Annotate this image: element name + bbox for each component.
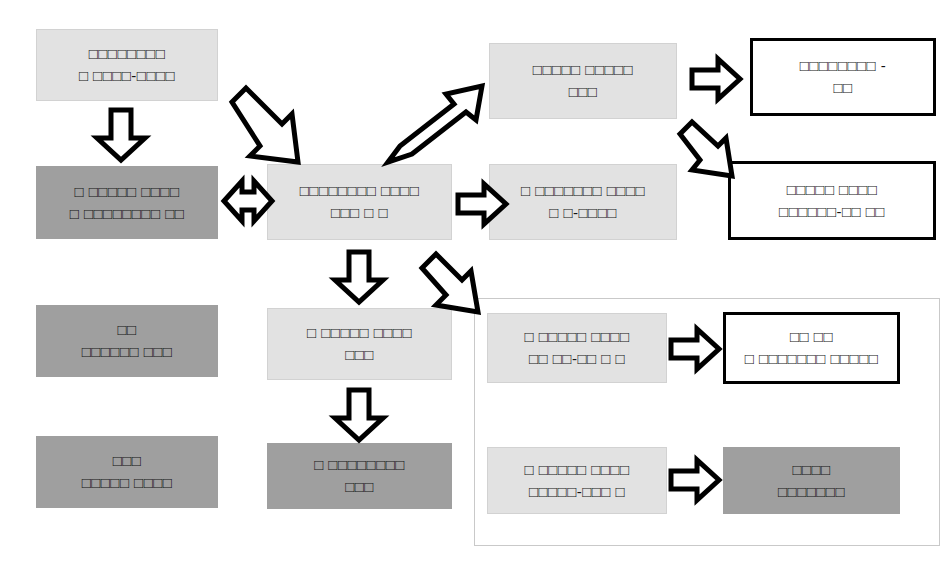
node-group-lower-target-line-1: □□□□: [792, 459, 830, 481]
node-lower-center-line-2: □□□: [345, 344, 374, 366]
node-bottom-center-dark[interactable]: □ □□□□□□□□ □□□: [267, 443, 452, 509]
node-lower-left-dark-line-1: □□: [117, 319, 136, 341]
node-group-lower-source-line-2: □□□□□-□□□ □: [529, 481, 625, 503]
node-bottom-center-dark-line-2: □□□: [345, 476, 374, 498]
node-mid-right-line-2: □ □-□□□□: [549, 202, 617, 224]
node-group-upper-source-line-2: □□ □□-□□ □ □: [529, 348, 625, 370]
node-top-left[interactable]: □□□□□□□□ □ □□□□-□□□□: [36, 29, 218, 101]
node-group-upper-target[interactable]: □□ □□ □ □□□□□□□ □□□□□: [723, 312, 900, 384]
node-group-upper-target-line-2: □ □□□□□□□ □□□□□: [745, 348, 879, 370]
node-top-mid-right-line-2: □□□: [569, 81, 598, 103]
node-top-left-line-1: □□□□□□□□: [89, 43, 165, 65]
node-top-left-line-2: □ □□□□-□□□□: [79, 65, 175, 87]
node-top-mid-right-line-1: □□□□□ □□□□□: [533, 59, 633, 81]
node-mid-right-outlined[interactable]: □□□□□ □□□□ □□□□□□-□□ □□: [728, 161, 936, 240]
node-group-lower-target-line-2: □□□□□□□: [778, 481, 845, 503]
node-lower-center[interactable]: □ □□□□□ □□□□ □□□: [267, 308, 452, 380]
node-group-lower-source-line-1: □ □□□□□ □□□□: [525, 459, 630, 481]
node-center-line-2: □□□ □ □: [331, 202, 388, 224]
node-top-right-outlined-line-2: □□: [833, 77, 852, 99]
node-lower-left-dark[interactable]: □□ □□□□□□ □□□: [36, 305, 218, 377]
node-top-mid-right[interactable]: □□□□□ □□□□□ □□□: [489, 43, 677, 119]
arrow-diagonal-topleft-to-center: [228, 96, 310, 172]
node-mid-right-line-1: □ □□□□□□□ □□□□: [521, 180, 645, 202]
node-mid-right[interactable]: □ □□□□□□□ □□□□ □ □-□□□□: [489, 164, 677, 240]
arrow-right-topmidright-to-outlined: [690, 57, 742, 101]
arrow-down-lowercenter-to-bottomcenter: [333, 388, 385, 442]
arrow-down-center-to-lowercenter: [333, 250, 385, 304]
node-bottom-left-dark[interactable]: □□□ □□□□□ □□□□: [36, 436, 218, 508]
node-bottom-center-dark-line-1: □ □□□□□□□□: [314, 454, 405, 476]
node-top-right-outlined[interactable]: □□□□□□□□ - □□: [750, 38, 936, 116]
arrow-down-topleft-to-midleft: [95, 108, 147, 162]
node-center[interactable]: □□□□□□□□ □□□□ □□□ □ □: [267, 164, 452, 240]
node-group-upper-source-line-1: □ □□□□□ □□□□: [525, 326, 630, 348]
diagram-canvas: □□□□□□□□ □ □□□□-□□□□ □ □□□□□ □□□□ □ □□□□…: [0, 0, 947, 580]
node-bottom-left-dark-line-2: □□□□□ □□□□: [82, 472, 173, 494]
node-mid-left-dark[interactable]: □ □□□□□ □□□□ □ □□□□□□□□ □□: [36, 166, 218, 239]
node-lower-left-dark-line-2: □□□□□□ □□□: [82, 341, 173, 363]
node-mid-right-outlined-line-1: □□□□□ □□□□: [787, 179, 878, 201]
node-group-upper-source[interactable]: □ □□□□□ □□□□ □□ □□-□□ □ □: [487, 313, 667, 383]
node-center-line-1: □□□□□□□□ □□□□: [300, 180, 419, 202]
node-group-lower-source[interactable]: □ □□□□□ □□□□ □□□□□-□□□ □: [487, 447, 667, 514]
node-group-lower-target[interactable]: □□□□ □□□□□□□: [723, 447, 900, 514]
arrow-diagonal-center-to-topmidright: [382, 76, 482, 168]
node-lower-center-line-1: □ □□□□□ □□□□: [307, 322, 412, 344]
node-bottom-left-dark-line-1: □□□: [113, 450, 142, 472]
node-mid-left-dark-line-2: □ □□□□□□□□ □□: [70, 203, 185, 225]
node-mid-right-outlined-line-2: □□□□□□-□□ □□: [779, 201, 885, 223]
node-group-upper-target-line-1: □□ □□: [790, 326, 833, 348]
node-mid-left-dark-line-1: □ □□□□□ □□□□: [75, 181, 180, 203]
node-top-right-outlined-line-1: □□□□□□□□ -: [800, 55, 887, 77]
